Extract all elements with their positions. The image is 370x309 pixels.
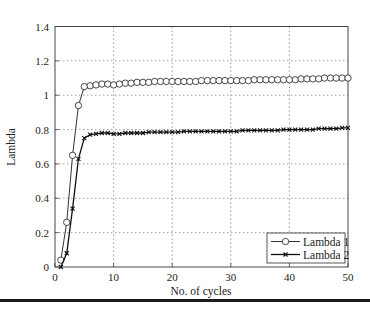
y-tick-label: 1.4	[35, 21, 49, 33]
data-point-circle-icon	[245, 77, 251, 83]
x-tick-label: 0	[52, 271, 58, 283]
legend-label-lambda-1: Lambda 1	[303, 236, 350, 248]
y-tick-label: 0	[44, 261, 50, 273]
x-axis-ticks: 01020304050	[52, 263, 354, 283]
y-tick-label: 0.8	[35, 124, 49, 136]
data-point-circle-icon	[192, 78, 198, 84]
x-tick-label: 50	[343, 271, 355, 283]
x-tick-label: 20	[167, 271, 179, 283]
plot-area-frame	[55, 27, 348, 268]
x-tick-label: 40	[284, 271, 296, 283]
data-point-circle-icon	[128, 80, 134, 86]
y-tick-label: 0.2	[35, 227, 49, 239]
x-axis-label: No. of cycles	[171, 285, 233, 298]
y-tick-label: 1	[44, 89, 50, 101]
data-point-circle-icon	[64, 219, 70, 225]
data-point-circle-icon	[292, 77, 298, 83]
data-point-circle-icon	[345, 75, 351, 81]
legend-marker-circle-icon	[282, 238, 288, 244]
data-point-circle-icon	[87, 83, 93, 89]
data-point-circle-icon	[110, 82, 116, 88]
data-point-circle-icon	[75, 102, 81, 108]
y-tick-label: 0.6	[35, 158, 49, 170]
x-tick-label: 10	[108, 271, 120, 283]
y-tick-label: 1.2	[35, 55, 49, 67]
y-tick-label: 0.4	[35, 192, 49, 204]
data-point-circle-icon	[105, 81, 111, 87]
data-point-circle-icon	[146, 79, 152, 85]
grid-lines	[55, 27, 348, 268]
data-point-circle-icon	[69, 152, 75, 158]
y-axis-label: Lambda	[5, 128, 17, 166]
data-point-circle-icon	[316, 76, 322, 82]
page-divider-rule	[0, 299, 370, 302]
data-point-circle-icon	[116, 81, 122, 87]
data-point-circle-icon	[81, 83, 87, 89]
x-tick-label: 30	[225, 271, 237, 283]
line-chart: 01020304050 00.20.40.60.811.21.4 No. of …	[0, 0, 370, 309]
legend-label-lambda-2: Lambda 2	[303, 249, 350, 261]
data-point-circle-icon	[93, 82, 99, 88]
legend: Lambda 1 Lambda 2	[267, 233, 350, 263]
